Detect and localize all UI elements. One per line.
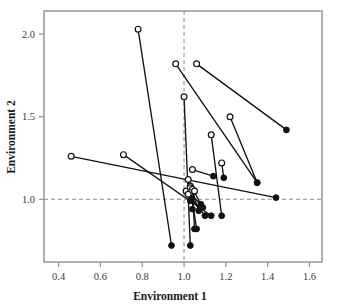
x-tick-label-1.2: 1.2 [219, 271, 232, 282]
open-point-pair-6 [208, 132, 214, 138]
open-point-pair-3 [194, 61, 200, 67]
chart-background [0, 0, 340, 307]
x-tick-label-1.6: 1.6 [303, 271, 316, 282]
y-axis-title: Environment 2 [5, 100, 17, 174]
filled-point-pair-6 [219, 213, 225, 219]
filled-point-pair-10 [210, 173, 216, 179]
filled-point-pair-8 [273, 195, 279, 201]
x-axis-title: Environment 1 [133, 290, 207, 302]
y-tick-label-2.0: 2.0 [22, 29, 35, 40]
open-point-pair-9 [219, 160, 225, 166]
x-tick-label-0.8: 0.8 [136, 271, 149, 282]
open-point-pair-11 [185, 177, 191, 183]
open-point-pair-1 [135, 26, 141, 32]
x-tick-label-0.6: 0.6 [94, 271, 107, 282]
open-point-pair-2 [173, 61, 179, 67]
filled-point-pair-16 [200, 205, 206, 211]
open-point-pair-4 [181, 94, 187, 100]
open-point-pair-10 [190, 167, 196, 173]
filled-point-pair-9 [221, 175, 227, 181]
open-point-pair-7 [121, 152, 127, 158]
filled-point-pair-17 [190, 206, 196, 212]
y-tick-label-1.0: 1.0 [22, 194, 35, 205]
filled-point-pair-5 [254, 180, 260, 186]
filled-point-pair-7 [208, 213, 214, 219]
filled-point-pair-15 [192, 226, 198, 232]
reaction-norm-plot: 0.40.60.81.01.21.41.61.01.52.0 Environme… [0, 0, 340, 307]
open-point-pair-8 [68, 153, 74, 159]
filled-point-pair-4 [187, 243, 193, 249]
filled-point-pair-1 [169, 243, 175, 249]
filled-point-pair-18 [187, 198, 193, 204]
open-point-pair-18 [185, 191, 191, 197]
open-point-pair-17 [192, 188, 198, 194]
open-point-pair-5 [227, 114, 233, 120]
y-tick-label-1.5: 1.5 [22, 111, 35, 122]
scatter-chart-figure: 0.40.60.81.01.21.41.61.01.52.0 Environme… [0, 0, 340, 307]
x-tick-label-0.4: 0.4 [52, 271, 66, 282]
filled-point-pair-3 [284, 127, 290, 133]
filled-point-pair-12 [202, 213, 208, 219]
x-tick-label-1.4: 1.4 [261, 271, 275, 282]
x-tick-label-1.0: 1.0 [177, 271, 190, 282]
